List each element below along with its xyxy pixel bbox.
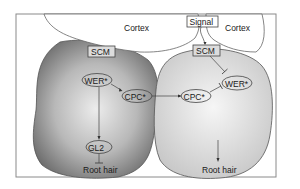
left-scm-label: SCM <box>91 47 110 57</box>
diagram-canvas: Cortex Cortex Signal SCM SCM WER* CPC* C… <box>0 0 300 189</box>
left-wer-label: WER* <box>85 76 109 86</box>
signal-label: Signal <box>190 17 214 27</box>
right-scm-label: SCM <box>196 46 215 56</box>
left-cpc-label: CPC* <box>125 92 147 102</box>
gl2-label: GL2 <box>88 143 104 153</box>
right-wer-label: WER* <box>225 79 249 89</box>
right-cell <box>154 49 272 179</box>
cortex-left-label: Cortex <box>124 23 150 33</box>
left-root-hair-label: Root hair <box>83 165 118 175</box>
right-root-hair-label: Root hair <box>202 165 237 175</box>
left-cell <box>33 40 158 178</box>
cortex-right-label: Cortex <box>225 23 251 33</box>
right-cpc-label: CPC* <box>184 92 206 102</box>
